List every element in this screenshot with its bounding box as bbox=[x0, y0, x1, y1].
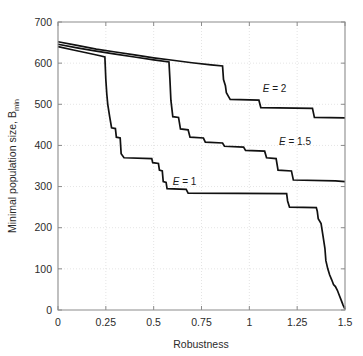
y-tick-label: 400 bbox=[34, 139, 52, 151]
series-line-2 bbox=[58, 47, 345, 309]
y-tick-label: 200 bbox=[34, 221, 52, 233]
y-tick-label: 100 bbox=[34, 263, 52, 275]
series-label-1: E = 1.5 bbox=[279, 136, 311, 147]
x-tick-label: 0.5 bbox=[146, 316, 161, 328]
series-label-0: E = 2 bbox=[263, 83, 287, 94]
x-tick-label: 1.25 bbox=[287, 316, 308, 328]
grid-lines bbox=[58, 22, 345, 310]
y-tick-label: 700 bbox=[34, 16, 52, 28]
x-tick-label: 0.25 bbox=[96, 316, 117, 328]
x-tick-label: 1.5 bbox=[338, 316, 353, 328]
x-tick-label: 0 bbox=[55, 316, 61, 328]
x-tick-label: 0.75 bbox=[191, 316, 212, 328]
x-tick-label: 1 bbox=[246, 316, 252, 328]
svg-text:Minimal population size, Bmin: Minimal population size, Bmin bbox=[6, 99, 21, 233]
y-tick-label: 0 bbox=[46, 304, 52, 316]
y-axis-title: Minimal population size, Bmin bbox=[6, 99, 21, 233]
y-tick-label: 300 bbox=[34, 180, 52, 192]
line-chart: 0100200300400500600700 00.250.50.7511.25… bbox=[0, 0, 363, 356]
x-tick-labels: 00.250.50.7511.251.5 bbox=[55, 316, 352, 328]
y-tick-labels: 0100200300400500600700 bbox=[34, 16, 52, 316]
y-tick-label: 600 bbox=[34, 57, 52, 69]
chart-figure: 0100200300400500600700 00.250.50.7511.25… bbox=[0, 0, 363, 356]
y-tick-label: 500 bbox=[34, 98, 52, 110]
series-label-2: E = 1 bbox=[173, 176, 197, 187]
x-axis-title: Robustness bbox=[173, 338, 228, 350]
